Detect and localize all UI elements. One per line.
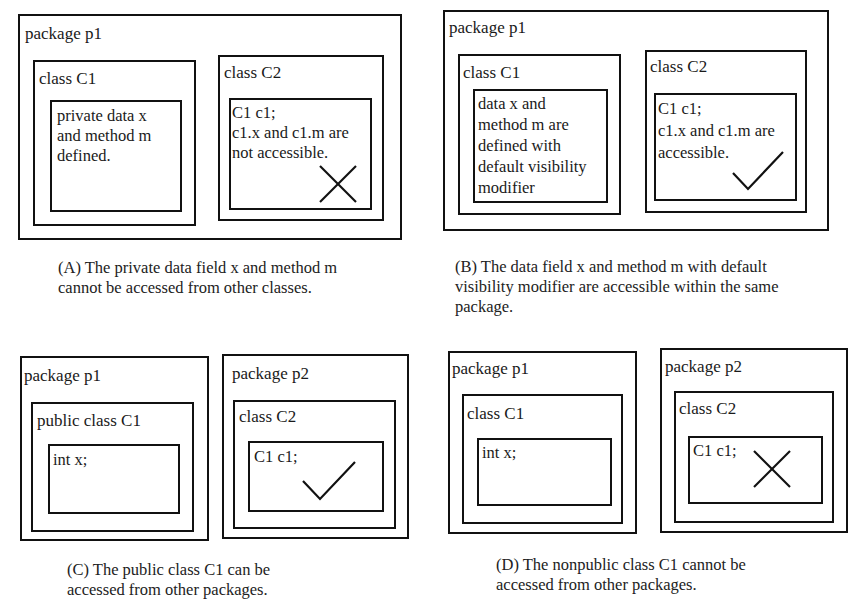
class-label: class C2 (224, 63, 281, 82)
caption-a: (A) The private data field x and method … (58, 258, 337, 298)
class-label: class C2 (679, 399, 736, 418)
caption-d: (D) The nonpublic class C1 cannot be acc… (496, 555, 746, 595)
check-mark-icon (302, 461, 356, 501)
class-body-text: C1 c1; c1.x and c1.m are not accessible. (232, 103, 349, 163)
check-mark-icon (732, 151, 784, 191)
class-label: class C1 (39, 69, 96, 88)
class-label: class C1 (467, 404, 524, 423)
cross-mark-icon (753, 450, 791, 488)
class-label: public class C1 (37, 411, 141, 430)
class-label: class C2 (650, 57, 707, 76)
package-label: package p2 (665, 357, 742, 376)
cross-mark-icon (319, 165, 357, 203)
class-label: class C1 (463, 63, 520, 82)
caption-c: (C) The public class C1 can be accessed … (67, 560, 270, 600)
package-label: package p2 (232, 364, 309, 383)
class-body-text: private data x and method m defined. (57, 106, 151, 166)
package-label: package p1 (449, 18, 526, 37)
caption-b: (B) The data field x and method m with d… (455, 257, 779, 317)
package-label: package p1 (25, 24, 102, 43)
class-body-text: int x; (53, 450, 87, 470)
class-body-text: C1 c1; (693, 441, 737, 461)
package-label: package p1 (452, 359, 529, 378)
class-body-text: data x and method m are defined with def… (478, 93, 587, 198)
class-body-text: int x; (482, 443, 516, 463)
class-label: class C2 (239, 407, 296, 426)
class-body-text: C1 c1; (254, 447, 298, 467)
package-label: package p1 (24, 366, 101, 385)
